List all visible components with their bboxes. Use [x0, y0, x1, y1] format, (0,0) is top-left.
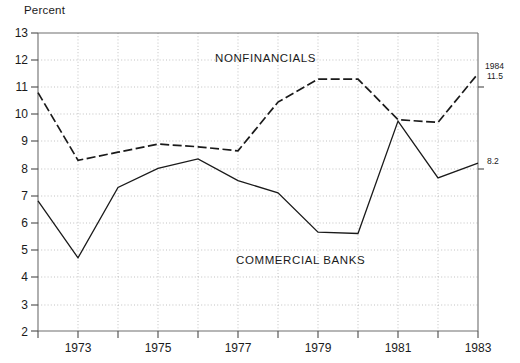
nonfinancials-label: NONFINANCIALS: [215, 52, 316, 64]
x-axis-ticks: [38, 331, 478, 338]
series-line-nonfinancials: [38, 74, 478, 161]
grid-lines: [38, 33, 478, 331]
series-line-commercial-banks: [38, 121, 478, 258]
endpoint-nonfinancials-value: 11.5: [487, 72, 503, 82]
y-axis-ticks: [31, 33, 38, 331]
right-axis-ticks: [478, 87, 484, 169]
endpoint-commercial-banks-value: 8.2: [487, 157, 499, 167]
axis-lines: [38, 33, 478, 331]
chart-container: Percent 13 12 11 10 9 8 7 6 5 4 3 2 1973…: [0, 0, 520, 363]
commercial-banks-label: COMMERCIAL BANKS: [236, 254, 365, 266]
